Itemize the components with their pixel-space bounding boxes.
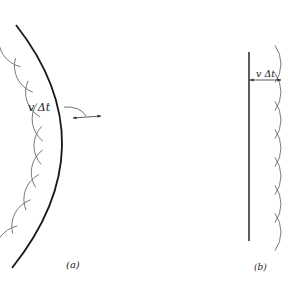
caption-a: (a) [66,259,80,270]
wavelet-arc [275,101,281,138]
wavelets-b [275,45,281,250]
wavelet-arc [275,45,281,82]
wavelet-arc [0,226,17,257]
label-leader-a [64,107,86,116]
wavelet-arc [275,157,281,194]
wavelet-arc [275,129,281,166]
wavelets-a [0,35,43,257]
wavelet-arc [275,213,281,250]
wavelet-arc [275,185,281,222]
distance-label-b: v Δt [256,68,275,79]
wavelet-arc [31,150,42,188]
wavelet-arc [24,174,39,210]
distance-label-a: v Δt [28,101,51,114]
wavelet-arc [275,73,281,110]
panel-a: v Δt (a) [0,25,101,270]
wavelet-arc [0,35,21,66]
wavelet-arc [14,58,32,92]
curved-wavefront [12,25,62,268]
huygens-wavelet-diagram: v Δt (a) v Δt (b) [0,0,288,281]
wavelet-arc [12,200,31,234]
distance-arrow-a [73,116,101,118]
caption-b: (b) [254,262,267,272]
panel-b: v Δt (b) [249,45,281,272]
